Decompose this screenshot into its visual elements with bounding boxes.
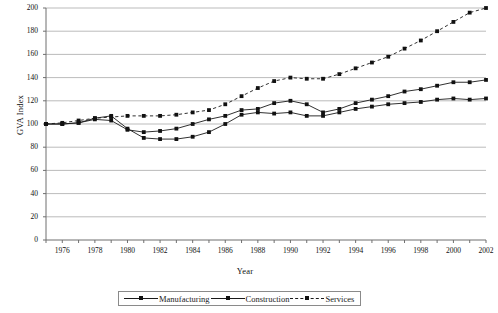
y-tick-label: 40 [8,189,38,198]
legend-line-icon-services [290,294,324,304]
y-tick-label: 20 [8,212,38,221]
legend-line-icon-construction [211,294,245,304]
y-tick-label: 100 [8,119,38,128]
chart-legend: Manufacturing Construction Services [118,291,361,306]
y-tick-label: 140 [8,73,38,82]
x-tick-label: 1992 [308,246,338,255]
legend-label-manufacturing: Manufacturing [158,294,211,304]
legend-item-manufacturing: Manufacturing [124,292,211,305]
x-tick-label: 2002 [471,246,498,255]
legend-line-icon-manufacturing [124,294,158,304]
y-tick-label: 160 [8,49,38,58]
x-tick-label: 1976 [47,246,77,255]
x-axis-title: Year [215,266,275,276]
x-tick-label: 1994 [341,246,371,255]
legend-item-construction: Construction [211,292,291,305]
legend-label-construction: Construction [245,294,291,304]
y-tick-label: 60 [8,165,38,174]
x-tick-label: 1988 [243,246,273,255]
y-tick-label: 200 [8,3,38,12]
legend-label-services: Services [324,294,355,304]
x-tick-label: 1982 [145,246,175,255]
x-tick-label: 1996 [373,246,403,255]
x-tick-label: 1980 [112,246,142,255]
legend-item-services: Services [290,292,355,305]
y-tick-label: 180 [8,26,38,35]
y-tick-label: 0 [8,235,38,244]
y-tick-label: 80 [8,142,38,151]
x-tick-label: 1986 [210,246,240,255]
y-tick-label: 120 [8,96,38,105]
x-tick-label: 2000 [438,246,468,255]
x-tick-label: 1998 [406,246,436,255]
x-tick-label: 1990 [275,246,305,255]
x-tick-label: 1978 [80,246,110,255]
x-tick-label: 1984 [178,246,208,255]
